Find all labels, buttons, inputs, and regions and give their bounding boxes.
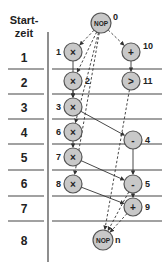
node-5: -5 xyxy=(124,175,150,193)
schedule-diagram: NOP0×1+10×2>11×3×6-4×7×8-5+9NOPn xyxy=(0,0,167,269)
node-label: 10 xyxy=(143,41,153,51)
svg-text:-: - xyxy=(131,135,134,146)
node-label: 4 xyxy=(145,135,150,145)
node-2: ×2 xyxy=(64,72,90,90)
svg-text:+: + xyxy=(130,202,136,213)
node-label: 3 xyxy=(56,102,61,112)
node-label: 2 xyxy=(85,76,90,86)
edge-3-4 xyxy=(81,111,124,135)
node-10: +10 xyxy=(122,41,153,61)
node-1: ×1 xyxy=(56,43,82,61)
node-label: 5 xyxy=(145,179,150,189)
svg-text:×: × xyxy=(70,152,76,163)
edge-0-1 xyxy=(80,30,94,45)
node-label: 9 xyxy=(145,202,150,212)
svg-text:×: × xyxy=(70,102,76,113)
svg-text:×: × xyxy=(70,127,76,138)
svg-text:NOP: NOP xyxy=(94,20,109,27)
svg-text:+: + xyxy=(128,47,134,58)
edge-0-10 xyxy=(108,30,124,45)
node-n: NOPn xyxy=(93,230,121,250)
node-label: 6 xyxy=(56,127,61,137)
node-9: +9 xyxy=(124,198,150,216)
svg-text:>: > xyxy=(128,76,134,87)
svg-text:×: × xyxy=(70,76,76,87)
node-8: ×8 xyxy=(56,175,82,193)
node-0: NOP0 xyxy=(91,12,118,33)
node-7: ×7 xyxy=(56,148,82,166)
edge-9-n xyxy=(110,214,127,232)
node-label: n xyxy=(115,235,121,245)
svg-text:×: × xyxy=(70,179,76,190)
node-11: >11 xyxy=(122,72,153,90)
node-label: 11 xyxy=(143,76,153,86)
node-label: 0 xyxy=(113,12,118,22)
node-3: ×3 xyxy=(56,98,82,116)
node-label: 8 xyxy=(56,179,61,189)
svg-text:×: × xyxy=(70,47,76,58)
svg-text:NOP: NOP xyxy=(96,237,111,244)
node-label: 1 xyxy=(56,47,61,57)
edge-8-9 xyxy=(81,187,123,203)
svg-text:-: - xyxy=(131,179,134,190)
node-label: 7 xyxy=(56,152,61,162)
node-6: ×6 xyxy=(56,123,82,141)
node-4: -4 xyxy=(124,131,150,149)
